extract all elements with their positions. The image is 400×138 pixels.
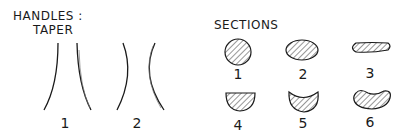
- section-6-shape: [354, 91, 391, 110]
- sections-title: SECTIONS: [214, 19, 279, 31]
- section-4-label: 4: [228, 118, 248, 132]
- handle-2-label: 2: [127, 116, 147, 130]
- handles-title: HANDLES :: [13, 10, 83, 22]
- handle-1-left-edge: [44, 43, 58, 110]
- section-2-shape: [286, 40, 318, 60]
- handle-1-drawing: [44, 43, 91, 110]
- handle-1-label: 1: [55, 116, 75, 130]
- section-3-label: 3: [360, 66, 380, 80]
- section-4-shape: [226, 93, 255, 111]
- section-5-shape: [289, 92, 318, 112]
- section-3-shape: [353, 43, 391, 53]
- handle-2-left-edge: [117, 43, 128, 110]
- section-5-label: 5: [293, 116, 313, 130]
- handles-subtitle: TAPER: [33, 24, 73, 36]
- section-1-shape: [225, 39, 251, 65]
- section-6-label: 6: [360, 115, 380, 129]
- handle-2-drawing: [117, 43, 164, 110]
- section-2-label: 2: [293, 67, 313, 81]
- section-1-label: 1: [228, 67, 248, 81]
